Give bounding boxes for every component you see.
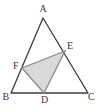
vertex-label-a: A	[40, 4, 47, 14]
vertex-label-c: C	[88, 92, 95, 102]
shaded-triangle-def	[22, 51, 65, 93]
vertex-label-f: F	[13, 61, 19, 71]
geometry-figure: A B C D E F	[0, 0, 103, 110]
vertex-label-b: B	[3, 92, 10, 102]
vertex-label-d: D	[41, 95, 48, 105]
vertex-label-e: E	[67, 41, 73, 51]
